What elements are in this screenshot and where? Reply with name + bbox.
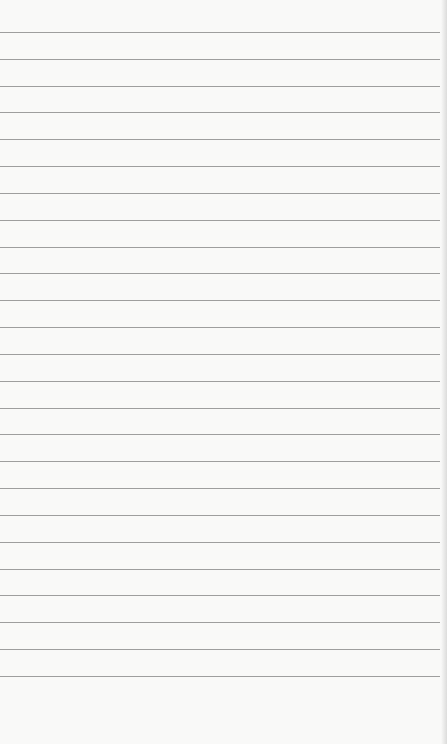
ruled-line xyxy=(0,381,440,382)
ruled-line xyxy=(0,220,440,221)
ruled-line xyxy=(0,273,440,274)
lined-paper xyxy=(0,0,447,744)
ruled-line xyxy=(0,595,440,596)
ruled-line xyxy=(0,408,440,409)
ruled-line xyxy=(0,327,440,328)
ruled-line xyxy=(0,622,440,623)
ruled-line xyxy=(0,139,440,140)
ruled-line xyxy=(0,193,440,194)
ruled-line xyxy=(0,166,440,167)
ruled-line xyxy=(0,542,440,543)
ruled-line xyxy=(0,461,440,462)
ruled-line xyxy=(0,434,440,435)
ruled-line xyxy=(0,649,440,650)
paper-right-edge xyxy=(441,0,447,744)
ruled-line xyxy=(0,247,440,248)
ruled-line xyxy=(0,59,440,60)
ruled-line xyxy=(0,488,440,489)
ruled-line xyxy=(0,300,440,301)
ruled-line xyxy=(0,515,440,516)
ruled-line xyxy=(0,676,440,677)
ruled-line xyxy=(0,569,440,570)
ruled-line xyxy=(0,354,440,355)
ruled-line xyxy=(0,32,440,33)
ruled-line xyxy=(0,86,440,87)
ruled-line xyxy=(0,112,440,113)
